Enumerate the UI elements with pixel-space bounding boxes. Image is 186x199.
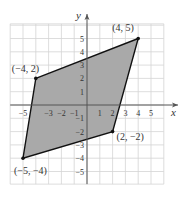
x-tick-label: −2 xyxy=(57,109,66,118)
y-tick-label: 4 xyxy=(80,48,84,57)
y-tick-label: 3 xyxy=(80,61,84,70)
y-tick-label: −3 xyxy=(75,141,84,150)
x-tick-label: 4 xyxy=(136,109,140,118)
x-tick-label: −5 xyxy=(19,109,28,118)
y-axis-label: y xyxy=(75,9,81,21)
x-tick-label: 3 xyxy=(123,109,127,118)
vertex-point xyxy=(136,37,140,41)
y-tick-label: −2 xyxy=(75,128,84,137)
x-tick-label: 1 xyxy=(98,109,102,118)
x-axis-label: x xyxy=(170,106,176,118)
vertex-label: (−5, −4) xyxy=(14,165,47,177)
x-tick-label: 2 xyxy=(111,109,115,118)
x-tick-label: 5 xyxy=(149,109,153,118)
vertex-label: (2, −2) xyxy=(117,131,144,143)
vertex-point xyxy=(111,130,115,134)
vertex-point xyxy=(34,77,38,81)
y-tick-label: 5 xyxy=(80,35,84,44)
x-tick-label: −3 xyxy=(44,109,53,118)
vertex-label: (−4, 2) xyxy=(12,63,39,75)
y-tick-label: −1 xyxy=(75,114,84,123)
y-tick-label: 1 xyxy=(80,88,84,97)
vertex-label: (4, 5) xyxy=(112,22,134,34)
coordinate-plane: −5−3−2−11234554321−1−2−3−4−5 (−4, 2)(4, … xyxy=(0,0,186,199)
y-tick-label: −4 xyxy=(75,154,84,163)
y-tick-label: 2 xyxy=(80,74,84,83)
vertex-point xyxy=(21,156,25,160)
y-tick-label: −5 xyxy=(75,168,84,177)
